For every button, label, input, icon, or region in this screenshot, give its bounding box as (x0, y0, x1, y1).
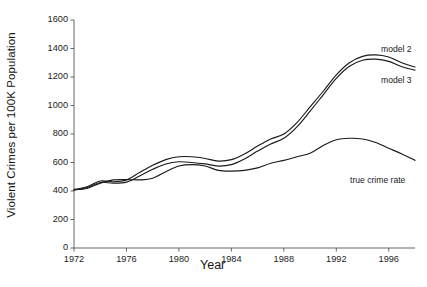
series-label-true-crime-rate: true crime rate (350, 175, 405, 185)
chart-container: Violent Crimes per 100K Population 02004… (0, 0, 427, 287)
x-tick-label: 1992 (316, 254, 356, 264)
y-tick-label: 1200 (34, 71, 68, 81)
x-axis-title: Year (200, 258, 225, 272)
y-axis-ticks (71, 20, 75, 248)
x-tick-label: 1972 (54, 254, 94, 264)
y-tick-label: 800 (34, 128, 68, 138)
y-tick-label: 0 (34, 242, 68, 252)
x-tick-label: 1980 (159, 254, 199, 264)
series-label-model-2: model 2 (381, 44, 412, 54)
x-tick-label: 1988 (264, 254, 304, 264)
axis-lines (74, 20, 415, 248)
data-series-group (74, 55, 415, 190)
y-tick-label: 1000 (34, 100, 68, 110)
y-tick-label: 400 (34, 185, 68, 195)
x-tick-label: 1976 (106, 254, 146, 264)
x-tick-label: 1996 (369, 254, 409, 264)
y-tick-label: 1400 (34, 43, 68, 53)
y-tick-label: 200 (34, 214, 68, 224)
series-line-model-2 (74, 55, 415, 190)
y-tick-label: 1600 (34, 14, 68, 24)
x-axis-ticks (74, 248, 389, 252)
series-label-model-3: model 3 (381, 75, 412, 85)
y-tick-label: 600 (34, 157, 68, 167)
